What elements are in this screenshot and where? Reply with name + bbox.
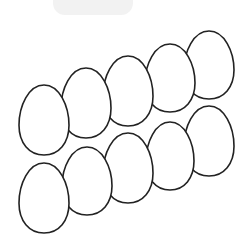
egg-icon (19, 85, 69, 155)
eggs-illustration (0, 0, 250, 243)
egg-icon (19, 163, 69, 233)
